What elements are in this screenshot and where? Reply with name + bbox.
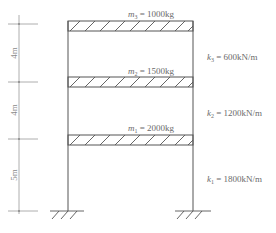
stiffness-label-k2: k2 = 1200kN/m — [207, 108, 262, 119]
dimension-label-storey2: 4m — [9, 104, 19, 116]
dimension-label-storey3: 4m — [9, 47, 19, 59]
frame-columns — [68, 21, 193, 211]
floor-slab-m3 — [68, 21, 198, 31]
mass-label-m1: m1 = 2000kg — [128, 123, 175, 134]
stiffness-label-k1: k1 = 1800kN/m — [207, 174, 262, 185]
shear-frame-diagram: 4m 4m 5m — [0, 0, 276, 233]
fixed-support-right-icon — [175, 211, 211, 219]
dimension-label-storey1: 5m — [9, 169, 19, 181]
stiffness-label-k3: k3 = 600kN/m — [207, 52, 258, 63]
mass-label-m2: m2 = 1500kg — [128, 66, 175, 77]
fixed-support-left-icon — [50, 211, 84, 219]
floor-slab-m2 — [68, 77, 198, 87]
mass-label-m3: m3 = 1000kg — [128, 9, 175, 20]
floor-slab-m1 — [68, 135, 198, 145]
